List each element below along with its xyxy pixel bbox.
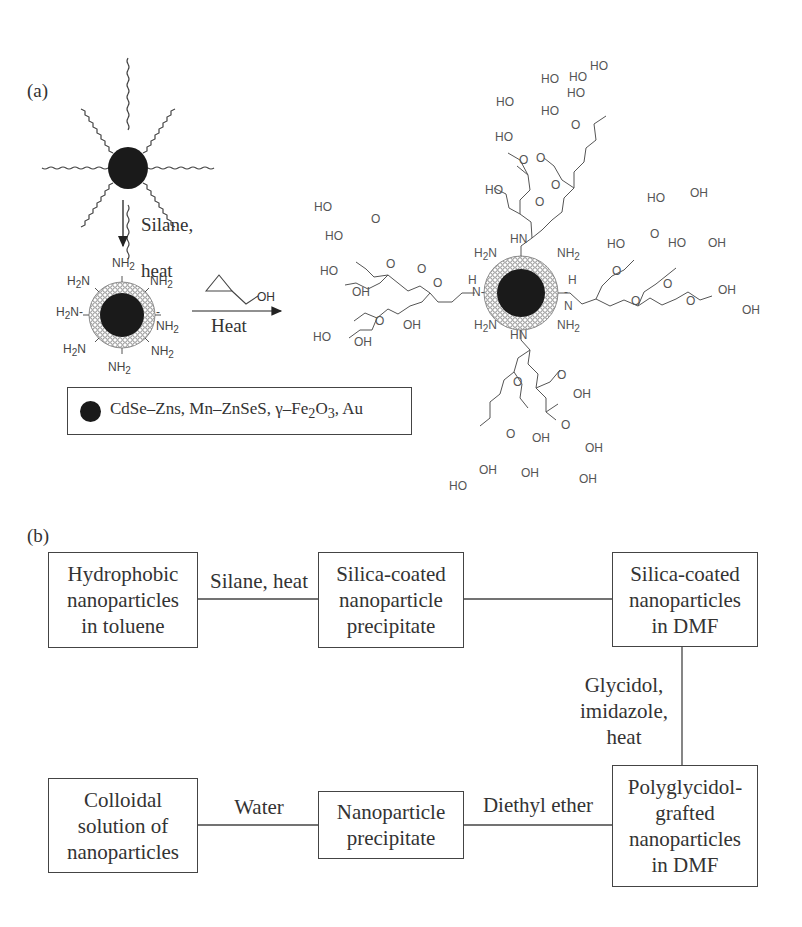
- silane-text: Silane,: [141, 214, 193, 235]
- o-label: O: [551, 178, 560, 192]
- panel-b-label: (b): [27, 525, 49, 547]
- oh-label: OH: [532, 431, 550, 445]
- ho-label: HO: [567, 86, 585, 100]
- box-polyglycidol-grafted-dmf: Polyglycidol- grafted nanoparticles in D…: [612, 765, 758, 887]
- ho-label: HO: [541, 72, 559, 86]
- ho-label: HO: [485, 183, 503, 197]
- amine-top-left-label: H2N: [67, 274, 90, 290]
- n-label: -N: [564, 285, 573, 313]
- amine-top-label: NH2: [112, 256, 135, 272]
- o-label: O: [371, 212, 380, 226]
- oh-label: OH: [521, 466, 539, 480]
- h2n-label: H2N: [474, 246, 497, 262]
- o-label: O: [561, 418, 570, 432]
- nh2-label: NH2: [557, 246, 580, 262]
- o-label: O: [519, 153, 528, 167]
- edge-label-silane-heat: Silane, heat: [200, 568, 318, 594]
- heat-label: Heat: [211, 313, 247, 339]
- nanoparticle-core-dot-icon: [80, 401, 101, 422]
- silane-heat-label: Silane, heat: [141, 190, 193, 282]
- edge-label-diethyl-ether: Diethyl ether: [466, 792, 610, 818]
- h2n-label: H2N: [474, 318, 497, 334]
- o-label: O: [557, 368, 566, 382]
- ho-label: HO: [496, 95, 514, 109]
- hn-label: HN: [510, 328, 527, 342]
- box-nanoparticle-precipitate: Nanoparticle precipitate: [318, 791, 464, 859]
- ho-label: HO: [668, 236, 686, 250]
- ho-label: HO: [325, 229, 343, 243]
- ho-label: HO: [590, 59, 608, 73]
- box-hydrophobic-nanoparticles: Hydrophobic nanoparticles in toluene: [48, 552, 198, 648]
- o-label: O: [663, 277, 672, 291]
- amine-left-label: H2N-: [56, 305, 83, 321]
- oh-label: OH: [354, 335, 372, 349]
- o-label: O: [506, 427, 515, 441]
- hn-label: HN: [510, 232, 527, 246]
- oh-label: OH: [352, 285, 370, 299]
- oh-label: OH: [573, 387, 591, 401]
- oh-label: OH: [708, 236, 726, 250]
- ho-label: HO: [449, 479, 467, 493]
- amine-bottom-label: NH2: [108, 360, 131, 376]
- o-label: O: [536, 151, 545, 165]
- o-label: O: [417, 262, 426, 276]
- oh-label: OH: [718, 283, 736, 297]
- o-label: O: [650, 227, 659, 241]
- amine-bottom-right-label: NH2: [151, 344, 174, 360]
- o-label: O: [513, 375, 522, 389]
- ho-label: HO: [313, 330, 331, 344]
- nanoparticle-legend: CdSe–Zns, Mn–ZnSeS, γ–Fe2O3, Au: [67, 387, 412, 435]
- edge-label-water: Water: [200, 794, 318, 820]
- o-label: O: [386, 257, 395, 271]
- ho-label: HO: [569, 70, 587, 84]
- oh-label: OH: [403, 318, 421, 332]
- o-label: O: [631, 294, 640, 308]
- amine-right-label: -NH2: [156, 305, 179, 335]
- amine-bottom-left-label: H2N: [63, 342, 86, 358]
- oh-label: OH: [690, 186, 708, 200]
- oh-label: OH: [579, 472, 597, 486]
- box-colloidal-solution: Colloidal solution of nanoparticles: [48, 778, 198, 873]
- ho-label: HO: [607, 237, 625, 251]
- box-silica-coated-dmf: Silica-coated nanoparticles in DMF: [612, 552, 758, 647]
- ho-label: HO: [495, 130, 513, 144]
- o-label: O: [612, 264, 621, 278]
- edge-label-glycidol: Glycidol, imidazole, heat: [572, 672, 676, 750]
- o-label: O: [686, 294, 695, 308]
- nanoparticle-core-icon: [108, 147, 148, 189]
- ho-label: HO: [541, 104, 559, 118]
- oh-label: OH: [479, 463, 497, 477]
- oh-label: OH: [585, 441, 603, 455]
- ho-label: HO: [320, 264, 338, 278]
- legend-text: CdSe–Zns, Mn–ZnSeS, γ–Fe2O3, Au: [110, 399, 363, 422]
- glycidol-oh-label: OH: [257, 284, 275, 310]
- nh2-label: NH2: [557, 318, 580, 334]
- o-label: O: [535, 195, 544, 209]
- oh-label: OH: [742, 303, 760, 317]
- box-silica-coated-precipitate: Silica-coated nanoparticle precipitate: [318, 552, 464, 648]
- o-label: O: [433, 276, 442, 290]
- ho-label: HO: [647, 191, 665, 205]
- amine-top-right-label: NH2: [150, 274, 173, 290]
- o-label: O: [571, 118, 580, 132]
- o-label: O: [375, 314, 384, 328]
- glycidol-structure-icon: [206, 275, 258, 304]
- ho-label: HO: [314, 200, 332, 214]
- n-label: N-: [472, 285, 485, 299]
